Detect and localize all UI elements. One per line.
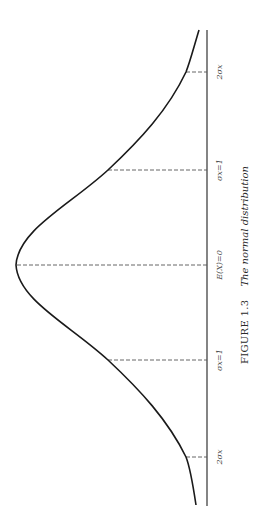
caption-title: The normal distribution <box>239 166 250 287</box>
tick-label-2sigma-top: 2σx <box>215 64 224 81</box>
normal-curve <box>16 30 199 505</box>
figure-caption: FIGURE 1.3 The normal distribution <box>233 166 252 364</box>
caption-label: FIGURE 1.3 <box>239 300 250 364</box>
tick-label-2sigma-bottom: 2σx <box>215 449 224 466</box>
tick-label-mean: E(X)=0 <box>215 250 224 281</box>
tick-label-sigma-top: σx=1 <box>215 159 224 181</box>
normal-distribution-figure: 2σx σx=1 E(X)=0 σx=1 2σx FIGURE 1.3 The … <box>0 0 260 530</box>
tick-label-sigma-bottom: σx=1 <box>215 349 224 371</box>
